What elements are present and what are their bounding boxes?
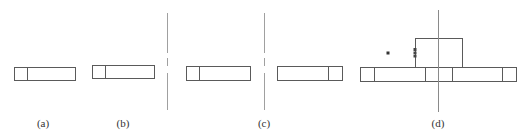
figure: (a) (b) (c) (d) bbox=[0, 0, 529, 140]
panel-a-bar bbox=[15, 68, 76, 81]
panel-b-bar bbox=[93, 66, 155, 79]
panel-c-right-bar bbox=[278, 67, 343, 81]
panel-d-dot bbox=[387, 52, 390, 55]
panel-a-label: (a) bbox=[37, 117, 49, 129]
panel-b-label: (b) bbox=[117, 117, 130, 129]
panel-c-label: (c) bbox=[258, 117, 270, 129]
panel-c-left-bar bbox=[187, 67, 251, 81]
panel-d-spring-mark bbox=[414, 48, 417, 58]
panel-d-label: (d) bbox=[432, 117, 445, 129]
